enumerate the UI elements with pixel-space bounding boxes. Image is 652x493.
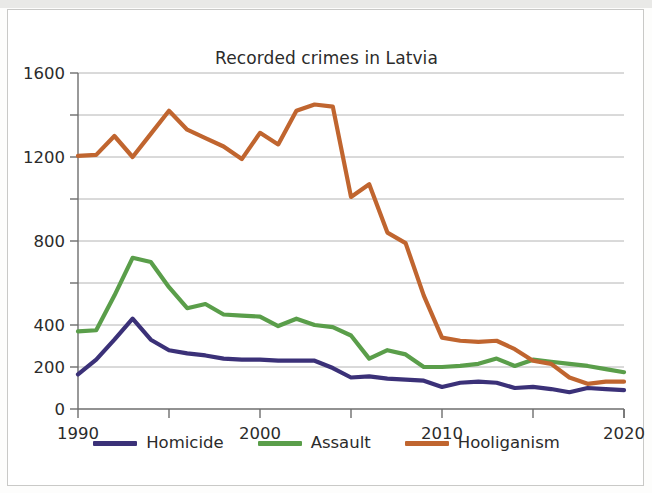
- y-tick-label-800: 800: [34, 232, 66, 251]
- y-axis-tick-labels: 020040080012001600: [23, 64, 65, 419]
- y-tick-label-200: 200: [34, 358, 66, 377]
- scanned-page: Recorded crimes in Latvia 02004008001200…: [0, 0, 652, 493]
- legend-swatch-assault-icon: [258, 441, 302, 446]
- series-line-hooliganism: [78, 105, 624, 384]
- legend-label: Assault: [311, 435, 371, 452]
- legend-swatch-hooliganism-icon: [405, 441, 449, 446]
- y-tick-label-0: 0: [55, 400, 66, 419]
- legend-swatch-homicide-icon: [93, 441, 137, 446]
- legend-item-hooliganism[interactable]: Hooliganism: [405, 435, 560, 452]
- series-line-homicide: [78, 319, 624, 393]
- data-series-group: [78, 105, 624, 393]
- legend-item-homicide[interactable]: Homicide: [93, 435, 223, 452]
- chart-legend: HomicideAssaultHooliganism: [8, 435, 645, 452]
- legend-label: Hooliganism: [458, 435, 560, 452]
- legend-label: Homicide: [146, 435, 223, 452]
- y-tick-label-1200: 1200: [23, 148, 65, 167]
- chart-figure: Recorded crimes in Latvia 02004008001200…: [7, 9, 644, 486]
- gridlines-group: [78, 73, 624, 367]
- page-top-edge: [0, 0, 652, 8]
- line-chart-plot: 020040080012001600 1990200020102020: [8, 10, 645, 487]
- axis-ticks-group: [70, 73, 624, 418]
- y-tick-label-1600: 1600: [23, 64, 65, 83]
- y-tick-label-400: 400: [34, 316, 66, 335]
- legend-item-assault[interactable]: Assault: [258, 435, 371, 452]
- series-line-assault: [78, 258, 624, 372]
